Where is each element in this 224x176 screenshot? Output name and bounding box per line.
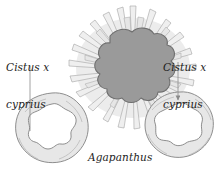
label-cistus-right-line-1: Cistus x (163, 61, 206, 73)
label-agapanthus-line-1: Agapanthus (88, 151, 155, 163)
label-cistus-right-line-2: cyprius (163, 98, 206, 110)
label-agapanthus: Agapanthus Headbourne Hybrids (88, 126, 155, 176)
planting-plan-diagram: Cistus x cyprius Cistus x cyprius Agapan… (0, 0, 224, 176)
label-cistus-left-line-1: Cistus x (6, 61, 49, 73)
label-cistus-right: Cistus x cyprius (163, 36, 206, 135)
label-cistus-left-line-2: cyprius (6, 98, 49, 110)
label-cistus-left: Cistus x cyprius (6, 36, 49, 135)
